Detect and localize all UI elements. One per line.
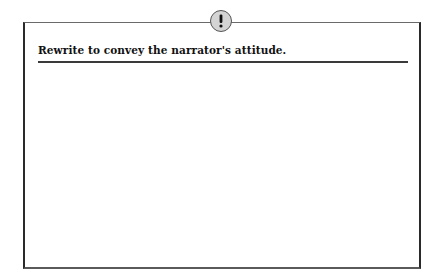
exclamation-icon (210, 10, 232, 32)
heading-divider (38, 61, 408, 63)
answer-writing-area[interactable] (26, 66, 418, 266)
prompt-heading: Rewrite to convey the narrator's attitud… (38, 44, 286, 56)
